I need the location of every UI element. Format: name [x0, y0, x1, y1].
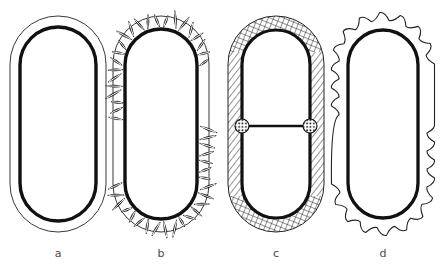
panel-c-inner-membrane [242, 30, 310, 218]
panel-c-septum-node-left [235, 119, 249, 133]
panel-label-b: b [158, 247, 165, 260]
panel-c-septum-node-right [303, 119, 317, 133]
panel-b-inner-membrane [125, 29, 197, 219]
panel-label-c: c [273, 247, 279, 260]
figure-drawing: a b c d [0, 0, 442, 273]
panel-b [105, 10, 218, 238]
panel-a [10, 16, 106, 232]
panel-c [222, 10, 330, 240]
panel-d [331, 13, 434, 236]
panel-label-a: a [55, 247, 62, 260]
panel-label-d: d [380, 247, 387, 260]
figure-container: a b c d [0, 0, 442, 273]
panel-a-inner-membrane [20, 27, 96, 221]
panel-d-inner-membrane [348, 30, 418, 218]
